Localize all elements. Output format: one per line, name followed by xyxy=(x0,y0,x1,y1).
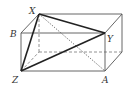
label-y: Y xyxy=(107,34,114,44)
triangle-xyz xyxy=(21,14,105,71)
diagonal-xa xyxy=(39,14,105,71)
label-x: X xyxy=(28,6,36,16)
cuboid-diagram: X B Y Z A xyxy=(0,0,131,90)
edge-z-x xyxy=(21,14,39,71)
edge-x-y xyxy=(39,14,105,33)
edge-y-z xyxy=(21,33,105,71)
edge-y-backtopright xyxy=(105,14,122,33)
label-z: Z xyxy=(11,75,19,85)
label-a: A xyxy=(101,75,109,85)
edge-a-backbottomright xyxy=(105,52,122,71)
label-b: B xyxy=(9,29,17,39)
